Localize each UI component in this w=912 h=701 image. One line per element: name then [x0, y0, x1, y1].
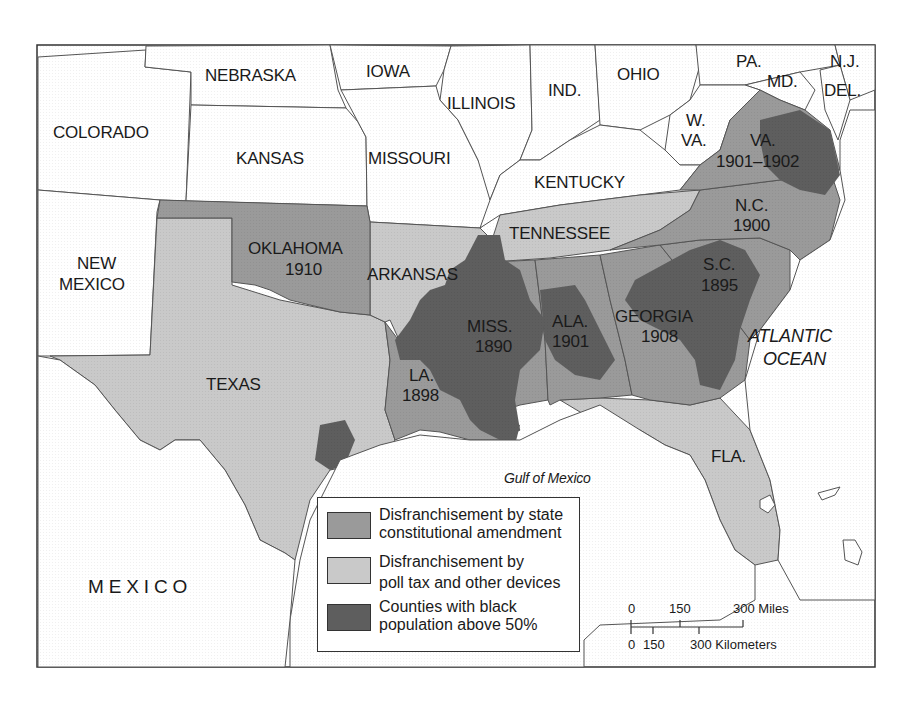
- label-mississippi: MISS.: [467, 318, 512, 336]
- legend-item-black-majority: Counties with black population above 50%: [379, 598, 537, 634]
- label-alabama: ALA.: [552, 313, 588, 331]
- label-oklahoma: OKLAHOMA: [248, 240, 343, 258]
- label-florida: FLA.: [711, 448, 746, 466]
- label-texas: TEXAS: [206, 376, 261, 394]
- label-alabama-year: 1901: [552, 333, 589, 351]
- label-georgia-year: 1908: [641, 328, 678, 346]
- label-indiana: IND.: [548, 82, 581, 100]
- legend-swatch-amendment: [327, 512, 371, 539]
- label-north-carolina: N.C.: [735, 197, 768, 215]
- label-mississippi-year: 1890: [475, 338, 512, 356]
- label-west-virginia-2: VA.: [681, 132, 707, 150]
- label-west-virginia-1: W.: [686, 112, 705, 130]
- label-louisiana: LA.: [409, 367, 434, 385]
- label-missouri: MISSOURI: [368, 150, 450, 168]
- label-arkansas: ARKANSAS: [367, 266, 458, 284]
- scale-km-300: 300 Kilometers: [690, 637, 777, 652]
- label-maryland: MD.: [767, 73, 798, 91]
- label-kansas: KANSAS: [236, 150, 304, 168]
- label-south-carolina: S.C.: [703, 256, 735, 274]
- label-iowa: IOWA: [366, 63, 410, 81]
- label-new-mexico-1: NEW: [77, 255, 116, 273]
- label-oklahoma-year: 1910: [285, 261, 322, 279]
- scale-miles-150: 150: [669, 601, 691, 616]
- label-louisiana-year: 1898: [402, 387, 439, 405]
- scale-miles-300: 300 Miles: [733, 601, 789, 616]
- label-nebraska: NEBRASKA: [205, 67, 296, 85]
- legend: Disfranchisement by state constitutional…: [317, 497, 580, 652]
- legend-item-poll-tax: Disfranchisement by poll tax and other d…: [379, 551, 560, 593]
- legend-item-amendment: Disfranchisement by state constitutional…: [379, 506, 563, 542]
- label-mexico: M E X I C O: [88, 578, 187, 596]
- legend-swatch-black-majority: [327, 604, 371, 631]
- legend-black-majority-line1: Counties with black: [379, 598, 537, 616]
- label-delaware: DEL.: [824, 82, 861, 100]
- scale-miles-0: 0: [628, 601, 635, 616]
- legend-swatch-poll-tax: [327, 557, 371, 584]
- label-ohio: OHIO: [617, 66, 660, 84]
- state-new-mexico: [38, 190, 160, 356]
- label-colorado: COLORADO: [53, 124, 149, 142]
- label-virginia: VA.: [750, 132, 776, 150]
- legend-black-majority-line2: population above 50%: [379, 616, 537, 634]
- label-tennessee: TENNESSEE: [509, 225, 610, 243]
- label-georgia: GEORGIA: [615, 308, 693, 326]
- label-illinois: ILLINOIS: [447, 95, 515, 113]
- label-atlantic-2: OCEAN: [763, 350, 826, 368]
- scale-km-150: 150: [643, 637, 665, 652]
- label-south-carolina-year: 1895: [701, 277, 738, 295]
- label-pennsylvania: PA.: [736, 53, 762, 71]
- legend-poll-tax-line2: poll tax and other devices: [379, 572, 560, 593]
- legend-amendment-line1: Disfranchisement by state: [379, 506, 563, 524]
- label-virginia-year: 1901–1902: [716, 153, 799, 171]
- label-kentucky: KENTUCKY: [534, 174, 625, 192]
- label-atlantic-1: ATLANTIC: [748, 327, 832, 345]
- label-new-jersey: N.J.: [830, 53, 859, 71]
- label-new-mexico-2: MEXICO: [59, 276, 125, 294]
- scale-km-0: 0: [628, 637, 635, 652]
- legend-poll-tax-line1: Disfranchisement by: [379, 551, 560, 572]
- legend-amendment-line2: constitutional amendment: [379, 524, 563, 542]
- label-gulf-of-mexico: Gulf of Mexico: [504, 469, 591, 487]
- label-north-carolina-year: 1900: [733, 217, 770, 235]
